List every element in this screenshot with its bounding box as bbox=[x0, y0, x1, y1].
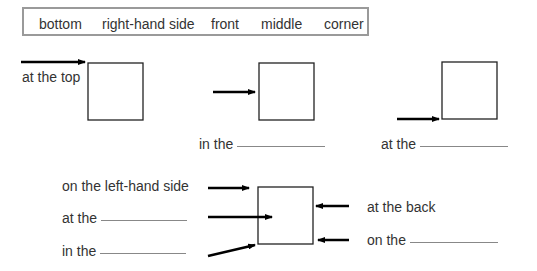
label-at-the-blank-2: at the bbox=[62, 210, 187, 226]
box-corner bbox=[442, 62, 497, 119]
answer-blank[interactable] bbox=[420, 145, 508, 147]
label-at-the-back: at the back bbox=[367, 199, 436, 215]
answer-blank[interactable] bbox=[101, 219, 187, 221]
label-in-the-blank: in the bbox=[199, 136, 325, 152]
box-middle bbox=[259, 63, 314, 120]
answer-blank[interactable] bbox=[237, 145, 325, 147]
answer-blank[interactable] bbox=[410, 241, 498, 243]
label-at-the-top: at the top bbox=[22, 69, 80, 85]
arrow-bottom-corner-icon bbox=[208, 245, 255, 256]
label-in-the-blank-2: in the bbox=[62, 243, 186, 259]
answer-blank[interactable] bbox=[100, 252, 186, 254]
label-on-the-left-hand-side: on the left-hand side bbox=[62, 178, 189, 194]
label-on-the-blank: on the bbox=[367, 232, 498, 248]
label-at-the-blank: at the bbox=[381, 136, 508, 152]
box-top bbox=[88, 63, 143, 120]
box-bottom-diagram bbox=[258, 187, 313, 244]
